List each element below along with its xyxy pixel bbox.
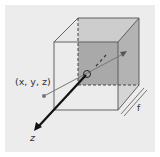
pinhole-camera-diagram: (x, y, z) z f — [0, 0, 160, 157]
focal-length-label: f — [137, 103, 141, 113]
point-label: (x, y, z) — [15, 76, 51, 87]
z-axis-label: z — [29, 132, 36, 143]
world-point — [42, 94, 46, 98]
